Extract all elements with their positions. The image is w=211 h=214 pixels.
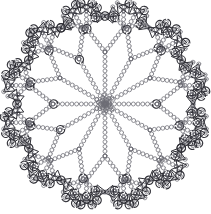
fractal-figure: Radial dendritic bead-chain fractal Symm… — [0, 0, 211, 214]
fractal-canvas — [0, 0, 211, 214]
